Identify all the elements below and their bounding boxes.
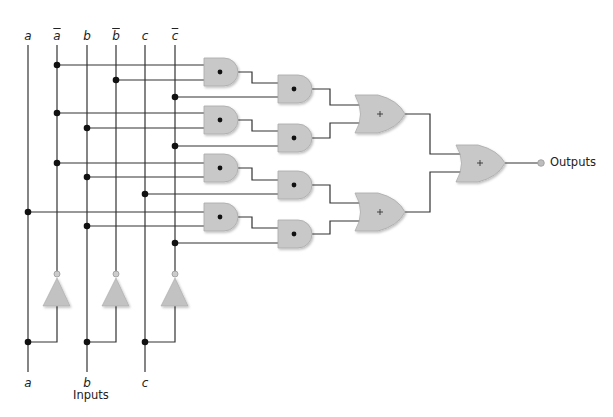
inverter-b (102, 271, 129, 306)
inverter-c (161, 271, 188, 306)
label-top-c-not: c (172, 30, 179, 42)
output-terminal-icon (538, 160, 545, 167)
inverters (43, 271, 188, 306)
feed-b (87, 306, 116, 342)
inputs-caption: Inputs (73, 390, 109, 402)
logic-circuit-diagram (0, 0, 613, 417)
label-top-c: c (142, 30, 149, 42)
and-gates-stage1 (204, 58, 238, 231)
label-top-b: b (83, 30, 91, 42)
label-top-b-not: b (112, 30, 120, 42)
label-top-a: a (24, 30, 31, 42)
label-bottom-a: a (24, 377, 31, 389)
feed-c (145, 306, 175, 342)
and-gates-stage2 (278, 75, 312, 248)
inverter-a (43, 271, 70, 306)
feed-a (28, 306, 57, 342)
label-bottom-c: c (142, 377, 149, 389)
or-gate-final (456, 145, 505, 182)
label-top-a-not: a (53, 30, 60, 42)
outputs-caption: Outputs (550, 157, 596, 169)
